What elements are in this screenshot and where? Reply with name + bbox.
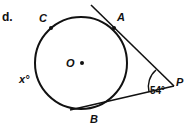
arc-x-label: x° — [18, 73, 30, 85]
angle-p-value: 54° — [150, 85, 165, 96]
point-c — [49, 26, 53, 30]
part-label: d. — [2, 10, 13, 24]
label-a: A — [116, 11, 125, 23]
label-c: C — [39, 12, 48, 24]
label-o: O — [66, 57, 75, 69]
label-b: B — [90, 113, 98, 125]
tangent-pa — [91, 5, 174, 86]
point-a — [112, 26, 116, 30]
geometry-diagram: d. C A O P B 54° x° — [0, 0, 190, 125]
label-p: P — [176, 76, 184, 88]
point-o — [80, 61, 84, 65]
